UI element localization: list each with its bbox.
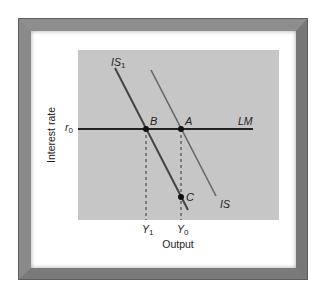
point-a-marker [178,126,184,132]
x-axis-title: Output [162,238,194,250]
point-c-marker [178,194,184,200]
is-lm-diagram: B A C IS1 IS LM r0 Y1 Y0 Output Interest… [0,0,325,293]
y-axis-title: Interest rate [45,107,57,163]
is-label: IS [220,198,230,210]
r0-tick-label: r0 [65,121,74,135]
point-b-marker [143,126,149,132]
plot-area [78,50,279,220]
y0-tick-label: Y0 [177,223,189,237]
y1-tick-label: Y1 [142,223,154,237]
point-a-label: A [184,115,192,127]
point-b-label: B [150,115,157,127]
lm-label: LM [238,115,253,127]
point-c-label: C [186,191,194,203]
